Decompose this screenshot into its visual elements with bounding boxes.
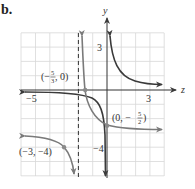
- svg-text:(−: (−: [41, 71, 50, 83]
- y-axis-label: y: [102, 5, 108, 16]
- svg-text:3: 3: [51, 77, 54, 84]
- svg-text:): ): [143, 112, 146, 124]
- x-axis-label: z: [180, 84, 185, 95]
- label-neg3-neg4: (−3, −4): [19, 146, 52, 158]
- y-tick-3: 3: [97, 42, 102, 53]
- label-0-neg5-2: (0, − 5 2 ): [112, 110, 146, 125]
- label-neg5-3-0: (− 5 3 , 0): [41, 69, 68, 84]
- x-tick-neg5: −5: [26, 93, 37, 104]
- svg-text:(0, −: (0, −: [112, 112, 131, 124]
- svg-text:5: 5: [51, 69, 54, 76]
- svg-text:2: 2: [138, 118, 141, 125]
- point-neg3-neg4: [62, 145, 66, 149]
- point-0-neg5-2: [105, 124, 109, 128]
- graph: z y −5 3 3 −4 (− 5 3 , 0) (0, − 5 2 ) (−…: [0, 0, 195, 189]
- point-neg5-3-0: [83, 88, 87, 92]
- svg-text:5: 5: [138, 110, 141, 117]
- x-tick-3: 3: [146, 93, 151, 104]
- svg-text:, 0): , 0): [55, 71, 68, 83]
- y-tick-neg4: −4: [93, 143, 104, 154]
